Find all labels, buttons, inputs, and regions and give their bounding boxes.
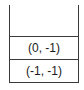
stack-item-label: (0, -1): [28, 41, 60, 55]
stack-container: (0, -1) (-1, -1): [9, 5, 79, 83]
stack-item-label: (-1, -1): [26, 64, 62, 78]
stack-item: (0, -1): [10, 36, 78, 59]
stack-empty-space: [10, 5, 78, 36]
stack-item: (-1, -1): [10, 59, 78, 82]
